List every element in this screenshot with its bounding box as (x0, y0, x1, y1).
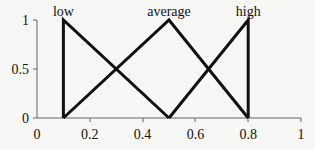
y-tick-label: 0 (22, 111, 29, 126)
x-tick-label: 0.2 (81, 127, 99, 142)
series-lines (63, 20, 248, 118)
y-tick-label: 0.5 (12, 62, 30, 77)
x-tick-label: 0.4 (134, 127, 152, 142)
x-tick-labels: 00.20.40.60.81 (34, 127, 305, 142)
set-label-low: low (53, 4, 75, 19)
x-axis (37, 118, 301, 122)
x-tick-label: 0 (34, 127, 41, 142)
x-tick-label: 1 (298, 127, 305, 142)
y-tick-labels: 00.51 (12, 13, 30, 126)
series-average (63, 20, 248, 118)
y-axis (33, 20, 37, 118)
set-label-high: high (236, 4, 261, 19)
x-tick-label: 0.6 (187, 127, 205, 142)
set-label-average: average (147, 4, 191, 19)
x-tick-label: 0.8 (239, 127, 257, 142)
membership-function-chart: 00.51 00.20.40.60.81 lowaveragehigh (0, 0, 315, 149)
y-tick-label: 1 (22, 13, 29, 28)
set-labels: lowaveragehigh (53, 4, 261, 19)
